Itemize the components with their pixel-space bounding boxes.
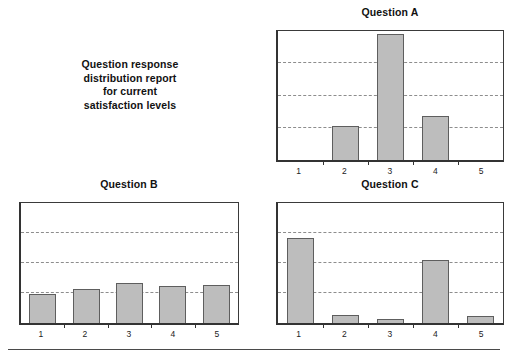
xlabel-3: 3 [367, 329, 413, 339]
xlabel-1: 1 [19, 329, 63, 339]
report-caption: Question response distribution report fo… [52, 58, 208, 112]
xlabels-question-a: 12345 [276, 166, 504, 176]
xlabel-3: 3 [367, 166, 413, 176]
footer-divider [8, 349, 500, 350]
xticks-question-b [21, 203, 238, 323]
report-caption-line-2: distribution report [52, 72, 208, 86]
plot-area-question-a [276, 30, 504, 162]
xticks-question-c [278, 203, 503, 323]
xlabels-question-c: 12345 [276, 329, 504, 339]
xtick [413, 160, 414, 165]
xticks-question-a [278, 31, 503, 160]
xtick [368, 160, 369, 165]
report-caption-line-1: Question response [52, 58, 208, 72]
xlabel-2: 2 [322, 329, 368, 339]
xtick [323, 160, 324, 165]
plot-area-question-c [276, 202, 504, 325]
chart-question-b: Question B 12345 [19, 178, 239, 346]
xlabel-4: 4 [413, 329, 459, 339]
xtick [108, 323, 109, 328]
xlabel-1: 1 [276, 166, 322, 176]
xlabel-5: 5 [458, 329, 504, 339]
xtick [368, 323, 369, 328]
plot-area-question-b [19, 202, 239, 325]
xtick [64, 323, 65, 328]
xlabel-5: 5 [195, 329, 239, 339]
report-caption-line-4: satisfaction levels [52, 99, 208, 113]
xtick [458, 160, 459, 165]
xtick [323, 323, 324, 328]
xlabels-question-b: 12345 [19, 329, 239, 339]
chart-title-question-b: Question B [19, 178, 239, 190]
xlabel-2: 2 [322, 166, 368, 176]
xlabel-1: 1 [276, 329, 322, 339]
xlabel-4: 4 [413, 166, 459, 176]
xtick [413, 323, 414, 328]
chart-title-question-c: Question C [276, 178, 504, 190]
xlabel-5: 5 [458, 166, 504, 176]
xtick [195, 323, 196, 328]
xlabel-4: 4 [151, 329, 195, 339]
xtick [458, 323, 459, 328]
report-caption-line-3: for current [52, 85, 208, 99]
chart-question-a: Question A 12345 [276, 6, 504, 174]
chart-question-c: Question C 12345 [276, 178, 504, 346]
chart-title-question-a: Question A [276, 6, 504, 18]
xlabel-2: 2 [63, 329, 107, 339]
xtick [151, 323, 152, 328]
xlabel-3: 3 [107, 329, 151, 339]
